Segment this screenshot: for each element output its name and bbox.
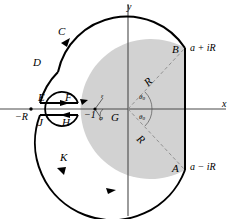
contour-point-k: K [60, 152, 67, 163]
contour-point-e: E [38, 92, 45, 103]
contour-point-j: J [38, 117, 43, 128]
theta-upper-label: θ0 [139, 94, 145, 102]
contour-point-b: B [172, 44, 179, 55]
b-endpoint-value: a + iR [190, 43, 216, 53]
arrowhead-arc-bottom [106, 188, 116, 194]
negative-r-dot [29, 107, 32, 110]
a-endpoint-value: a − iR [190, 162, 216, 172]
contour-point-a: A [172, 163, 179, 174]
epsilon-label: ε [101, 93, 103, 99]
contour-point-g: G [111, 112, 119, 123]
complex-plane-contour-figure: y x C D E F G H J K B A a + iR a − iR −R… [0, 0, 234, 219]
contour-point-d: D [33, 57, 41, 68]
x-axis-label: x [222, 99, 226, 109]
contour-point-h: H [62, 117, 70, 128]
negative-r-value: −R [15, 112, 28, 122]
arrowhead-arc-k [57, 167, 66, 175]
theta-lower-label: θ0 [139, 114, 145, 122]
contour-point-f: F [65, 92, 72, 103]
y-axis-label: y [127, 2, 131, 12]
branch-point-value: −1 [84, 110, 96, 120]
phi-label: φ [99, 115, 103, 122]
contour-diagram-svg [0, 0, 234, 219]
contour-point-c: C [58, 26, 65, 37]
